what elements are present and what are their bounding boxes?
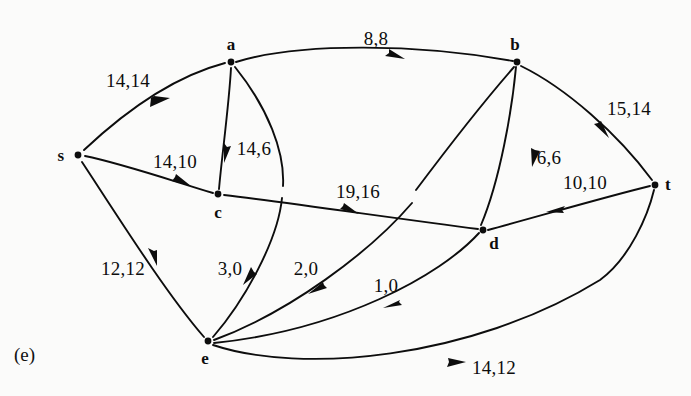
edge-a-b	[236, 48, 513, 62]
edge-label-a-b: 8,8	[364, 29, 389, 48]
edge-s-e	[82, 162, 204, 337]
arrowhead-a-b	[385, 49, 405, 59]
node-dot-c	[215, 191, 222, 198]
node-dot-s	[75, 152, 82, 159]
edge-d-b	[481, 67, 540, 225]
arrowhead-s-a	[150, 96, 170, 107]
arrowhead-a-c	[224, 143, 231, 163]
arrowhead-d-e	[383, 300, 402, 308]
arrowhead-b-e	[308, 282, 327, 294]
edge-label-a-c: 14,6	[237, 139, 271, 158]
edge-label-d-b: 6,6	[537, 148, 562, 167]
node-label-s: s	[58, 147, 65, 164]
node-dot-b	[514, 59, 521, 66]
edge-d-t	[488, 186, 650, 230]
edge-label-s-a: 14,14	[106, 71, 150, 90]
edge-label-a-e: 3,0	[218, 259, 243, 278]
edge-label-d-e: 1,0	[374, 276, 399, 295]
edge-a-c	[219, 68, 231, 189]
node-label-d: d	[489, 235, 499, 252]
figure-caption: (e)	[14, 345, 35, 364]
edge-label-b-t: 15,14	[607, 99, 651, 118]
node-dot-a	[228, 59, 235, 66]
arrowhead-e-t	[447, 358, 466, 367]
edge-label-s-c: 14,10	[153, 152, 197, 171]
edge-label-d-t: 10,10	[563, 173, 607, 192]
node-label-b: b	[510, 36, 520, 53]
edge-label-b-e: 2,0	[294, 259, 319, 278]
node-dot-e	[205, 338, 212, 345]
node-label-a: a	[227, 36, 236, 53]
arrowhead-d-t	[546, 206, 565, 213]
node-label-c: c	[214, 204, 222, 221]
edge-d-e	[214, 233, 479, 343]
edge-label-s-e: 12,12	[101, 259, 145, 278]
flow-network-figure: s a b c d e t 14,14 14,10 12,12 8,8 14,6…	[0, 0, 691, 396]
node-label-t: t	[665, 176, 671, 193]
edge-b-e	[214, 67, 514, 340]
edge-label-c-d: 19,16	[336, 182, 380, 201]
node-dot-d	[480, 227, 487, 234]
node-dot-t	[652, 182, 659, 189]
node-label-e: e	[201, 350, 209, 367]
edge-label-e-t: 14,12	[472, 358, 516, 377]
